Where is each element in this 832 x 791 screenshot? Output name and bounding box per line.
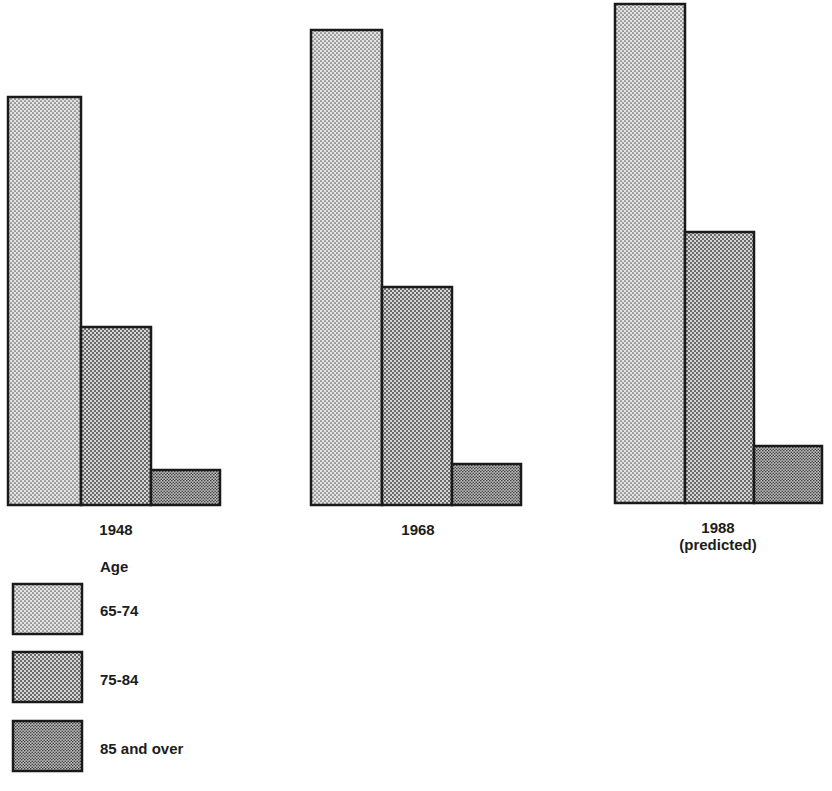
bars-layer: [8, 4, 822, 505]
legend-label-65-74: 65-74: [100, 602, 138, 619]
bar-1948-65-74: [8, 97, 81, 505]
legend-label-75-84: 75-84: [100, 671, 138, 688]
bar-1948-85-and-over: [151, 470, 220, 505]
bar-1948-75-84: [81, 327, 151, 505]
bar-1968-85-and-over: [452, 464, 521, 505]
bar-1968-65-74: [311, 30, 382, 505]
legend-swatch-75-84: [13, 652, 82, 702]
bar-1968-75-84: [382, 287, 452, 505]
legend-label-85-and-over: 85 and over: [100, 740, 183, 757]
legend-swatches: [13, 584, 82, 771]
legend-swatch-85-and-over: [13, 721, 82, 771]
category-label-1988: 1988: [701, 520, 734, 536]
legend-swatch-65-74: [13, 584, 82, 634]
category-label-1968: 1968: [401, 522, 434, 538]
legend-title: Age: [100, 558, 128, 575]
bar-1988-85-and-over: [754, 446, 822, 503]
category-label-1948: 1948: [99, 522, 132, 538]
category-sublabel-predicted: (predicted): [679, 537, 757, 553]
bar-1988-75-84: [685, 232, 754, 503]
bar-1988-65-74: [615, 4, 685, 503]
